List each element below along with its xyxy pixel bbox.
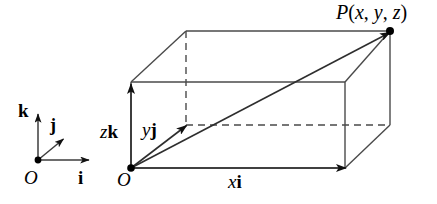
point-P-y: y <box>374 1 383 23</box>
zk-label: zk <box>100 122 118 141</box>
point-P-paren-open: ( <box>348 1 355 23</box>
yj-label: yj <box>142 120 157 139</box>
vector-yj <box>131 126 187 169</box>
point-P-comma-1: , <box>364 1 374 23</box>
triad-k-label: k <box>18 101 29 120</box>
unit-vector-triad <box>35 114 89 163</box>
yj-unit-vector: j <box>150 119 156 140</box>
box-origin-label: O <box>117 170 131 189</box>
triad-origin-label: O <box>24 168 38 187</box>
point-P-label: P(x, y, z) <box>336 2 407 22</box>
point-P-paren-close: ) <box>400 1 407 23</box>
triad-origin-point <box>35 157 42 164</box>
xi-unit-vector: i <box>236 171 241 192</box>
edge-top-right-oblique <box>345 31 390 82</box>
component-vectors <box>131 33 390 169</box>
point-P-x: x <box>355 1 364 23</box>
triad-j-label: j <box>50 116 56 134</box>
vector-diagram-figure: k j i O zk yj xi O P(x, y, z) <box>0 0 437 204</box>
vector-position-OP <box>131 33 390 169</box>
diagram-canvas <box>0 0 437 204</box>
box-hidden-edges <box>186 31 390 125</box>
zk-unit-vector: k <box>107 121 118 142</box>
xi-label: xi <box>228 172 242 191</box>
point-P-marker <box>386 27 394 35</box>
point-P-name: P <box>336 1 348 23</box>
edge-bottom-right-oblique <box>345 125 390 168</box>
triad-j-arrow <box>38 139 64 160</box>
triad-i-label: i <box>78 168 83 187</box>
edge-top-left-oblique <box>131 31 186 82</box>
point-P-comma-2: , <box>383 1 393 23</box>
